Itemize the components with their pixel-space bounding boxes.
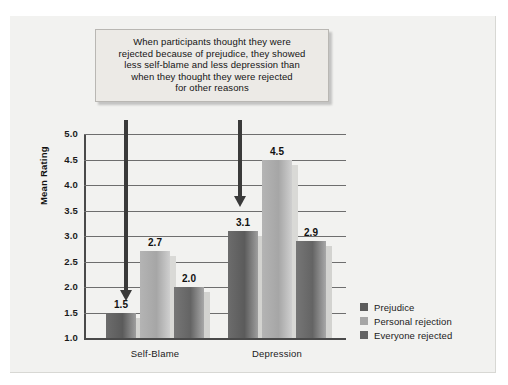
bar-fill: [228, 231, 258, 338]
legend-item: Personal rejection: [360, 314, 452, 328]
y-axis-line: [84, 134, 86, 340]
y-tick-label: 2.0: [38, 281, 78, 292]
arrow-shaft-depression: [238, 120, 242, 198]
bar: [228, 231, 258, 338]
bar-fill: [140, 251, 170, 338]
bar: [296, 241, 326, 338]
arrow-head-depression: [234, 196, 246, 207]
callout-line: for other reasons: [104, 82, 320, 94]
bar-value-label: 2.0: [182, 273, 196, 284]
callout-box: When participants thought they wererejec…: [95, 29, 329, 102]
x-category-label: Depression: [252, 348, 302, 359]
legend-item: Everyone rejected: [360, 328, 452, 342]
bar-fill: [296, 241, 326, 338]
legend: PrejudicePersonal rejectionEveryone reje…: [360, 300, 452, 342]
bar: [140, 251, 170, 338]
callout-line: When participants thought they were: [104, 36, 320, 48]
callout-line: less self-blame and less depression than: [104, 59, 320, 71]
x-category-label: Self-Blame: [131, 348, 179, 359]
bar-value-label: 4.5: [270, 146, 284, 157]
bar-value-label: 2.7: [148, 237, 162, 248]
legend-label: Everyone rejected: [374, 330, 452, 341]
bar: [174, 287, 204, 338]
x-axis-line: [84, 338, 346, 340]
y-tick-label: 2.5: [38, 256, 78, 267]
legend-swatch: [360, 331, 368, 339]
y-tick-label: 4.0: [38, 179, 78, 190]
bar-side-shadow: [326, 246, 332, 338]
y-tick-label: 3.0: [38, 230, 78, 241]
arrow-head-self-blame: [120, 290, 132, 301]
bar-fill: [174, 287, 204, 338]
bar: [106, 313, 136, 339]
callout-line: rejected because of prejudice, they show…: [104, 48, 320, 60]
bar-fill: [262, 160, 292, 339]
legend-swatch: [360, 303, 368, 311]
y-tick-label: 4.5: [38, 154, 78, 165]
bar: [262, 160, 292, 339]
bar-value-label: 3.1: [236, 217, 250, 228]
legend-item: Prejudice: [360, 300, 452, 314]
y-tick-label: 1.0: [38, 332, 78, 343]
y-tick-label: 3.5: [38, 205, 78, 216]
callout-line: when they thought they were rejected: [104, 71, 320, 83]
legend-label: Prejudice: [374, 302, 415, 313]
y-tick-label: 1.5: [38, 307, 78, 318]
arrow-shaft-self-blame: [124, 120, 128, 292]
bar-value-label: 2.9: [304, 227, 318, 238]
bar-fill: [106, 313, 136, 339]
y-tick-label: 5.0: [38, 128, 78, 139]
chart-figure: Mean Rating 1.52.72.03.14.52.9 5.04.54.0…: [0, 0, 508, 385]
legend-swatch: [360, 317, 368, 325]
legend-label: Personal rejection: [374, 316, 452, 327]
bar-side-shadow: [204, 292, 210, 338]
